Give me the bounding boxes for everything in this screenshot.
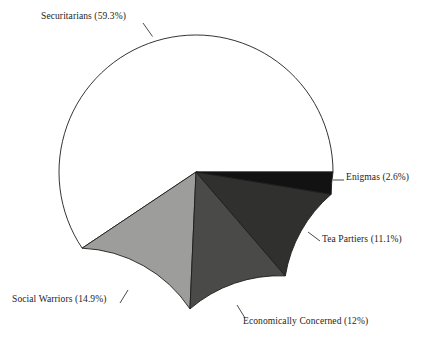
leader-line-securitarians <box>143 23 153 37</box>
pie-label-social-warriors: Social Warriors (14.9%) <box>12 294 107 304</box>
pie-chart-canvas <box>0 0 433 342</box>
pie-label-enigmas: Enigmas (2.6%) <box>346 172 409 182</box>
pie-label-tea-partiers: Tea Partiers (11.1%) <box>322 234 402 244</box>
pie-label-securitarians: Securitarians (59.3%) <box>41 11 126 21</box>
pie-chart-figure: Securitarians (59.3%) Enigmas (2.6%) Tea… <box>0 0 433 342</box>
pie-label-economically-concerned: Economically Concerned (12%) <box>243 316 368 326</box>
leader-line-social-warriors <box>120 290 128 303</box>
leader-line-tea-partiers <box>308 232 320 241</box>
